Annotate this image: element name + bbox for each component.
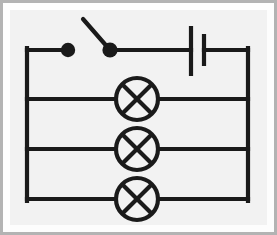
switch-left-contact-dot[interactable] (61, 43, 75, 57)
open-switch[interactable] (61, 19, 118, 58)
circuit-canvas (10, 10, 267, 225)
circuit-diagram-svg (10, 10, 267, 225)
lamp-3[interactable] (116, 178, 158, 220)
lamp-1[interactable] (116, 78, 158, 120)
diagram-frame (0, 0, 277, 235)
switch-right-contact-dot[interactable] (102, 42, 117, 57)
lamp-2[interactable] (116, 128, 158, 170)
battery-cell[interactable] (191, 26, 204, 76)
